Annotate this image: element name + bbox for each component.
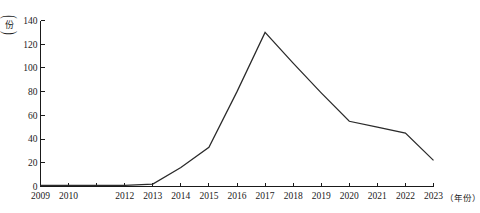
x-tick-label: 2017 [256, 191, 275, 201]
y-tick-label: 120 [23, 40, 38, 50]
y-tick-label: 140 [23, 16, 38, 26]
x-tick-label: 2013 [143, 191, 162, 201]
x-axis-unit-text: （年份） [445, 193, 480, 203]
x-tick-label: 2021 [368, 191, 387, 201]
axis-lines [41, 21, 434, 187]
data-series-line [41, 32, 434, 185]
x-tick-label: 2019 [312, 191, 331, 201]
x-axis-unit-label: （年份） [445, 191, 480, 203]
x-tick-label: 2023 [424, 191, 443, 201]
y-tick-label: 40 [28, 134, 38, 144]
x-tick-label: 2020 [340, 191, 359, 201]
x-tick-label: 2022 [396, 191, 415, 201]
x-tick-label: 2012 [115, 191, 134, 201]
x-tick-label: 2018 [284, 191, 303, 201]
y-axis-ticks: 020406080100120140 [23, 16, 44, 192]
y-tick-label: 60 [28, 111, 38, 121]
x-tick-label: 2009 [31, 191, 50, 201]
x-tick-label: 2015 [199, 191, 218, 201]
x-tick-label: 2016 [228, 191, 247, 201]
x-tick-label: 2014 [171, 191, 190, 201]
y-tick-label: 100 [23, 63, 38, 73]
y-tick-label: 20 [28, 158, 38, 168]
y-tick-label: 80 [28, 87, 38, 97]
x-tick-label: 2010 [59, 191, 78, 201]
